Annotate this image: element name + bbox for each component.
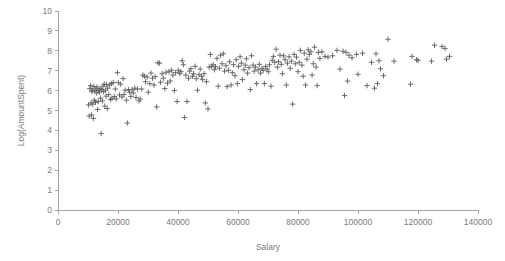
data-point — [342, 93, 347, 98]
data-point — [236, 64, 241, 69]
data-point — [161, 76, 166, 81]
data-point — [205, 106, 210, 111]
data-point — [128, 94, 133, 99]
data-point — [409, 54, 414, 59]
data-point — [295, 69, 300, 74]
data-point — [198, 66, 203, 71]
data-point — [408, 82, 413, 87]
data-point — [315, 83, 320, 88]
data-point — [354, 52, 359, 57]
x-tick-label: 20000 — [106, 217, 130, 227]
data-point — [258, 70, 263, 75]
data-point — [221, 51, 226, 56]
data-point — [227, 59, 232, 64]
data-point — [208, 52, 213, 57]
data-point — [240, 77, 245, 82]
x-tick-label: 100000 — [344, 217, 373, 227]
data-point — [187, 68, 192, 73]
data-point — [203, 100, 208, 105]
data-point — [125, 120, 130, 125]
data-point — [337, 66, 342, 71]
data-point — [162, 86, 167, 91]
y-tick-label: 0 — [47, 205, 52, 215]
data-point — [148, 70, 153, 75]
data-point — [297, 60, 302, 65]
data-point — [252, 68, 257, 73]
y-tick-label: 3 — [47, 145, 52, 155]
data-point — [226, 68, 231, 73]
data-point — [232, 73, 237, 78]
data-point — [146, 89, 151, 94]
y-tick-label: 2 — [47, 165, 52, 175]
data-point — [280, 71, 285, 76]
y-tick-label: 5 — [47, 106, 52, 116]
data-point — [271, 54, 276, 59]
data-point — [275, 64, 280, 69]
data-point — [255, 67, 260, 72]
data-point — [284, 82, 289, 87]
data-point — [322, 54, 327, 59]
data-point — [309, 72, 314, 77]
data-point — [317, 56, 322, 61]
data-point — [345, 78, 350, 83]
data-point — [212, 67, 217, 72]
chart-canvas: 012345678910 020000400006000080000100000… — [0, 0, 505, 261]
data-point — [290, 101, 295, 106]
data-point — [124, 97, 129, 102]
data-point — [163, 70, 168, 75]
data-point — [293, 61, 298, 66]
data-point — [173, 70, 178, 75]
data-point — [231, 62, 236, 67]
data-point — [184, 99, 189, 104]
data-point — [349, 55, 354, 60]
x-axis-tick-labels: 020000400006000080000100000120000140000 — [56, 217, 493, 227]
data-point — [129, 87, 134, 92]
data-point — [360, 50, 365, 55]
y-tick-label: 10 — [43, 6, 53, 16]
x-tick-label: 40000 — [166, 217, 190, 227]
x-tick-label: 0 — [56, 217, 61, 227]
data-point — [174, 99, 179, 104]
data-point — [313, 64, 318, 69]
data-point — [291, 52, 296, 57]
data-point — [254, 81, 259, 86]
x-tick-label: 80000 — [286, 217, 310, 227]
data-point — [373, 51, 378, 56]
data-point — [375, 81, 380, 86]
data-point — [319, 49, 324, 54]
data-point — [248, 87, 253, 92]
data-point — [195, 88, 200, 93]
x-tick-label: 60000 — [226, 217, 250, 227]
y-tick-label: 7 — [47, 66, 52, 76]
data-point — [262, 81, 267, 86]
data-point — [115, 70, 120, 75]
data-point — [369, 60, 374, 65]
data-point — [158, 80, 163, 85]
data-point — [266, 69, 271, 74]
data-point — [235, 81, 240, 86]
data-point — [99, 131, 104, 136]
data-point — [237, 54, 242, 59]
data-point — [201, 71, 206, 76]
data-point — [218, 52, 223, 57]
data-point — [300, 74, 305, 79]
data-point — [182, 115, 187, 120]
data-point — [234, 57, 239, 62]
data-point — [268, 84, 273, 89]
data-point — [246, 65, 251, 70]
data-point — [132, 86, 137, 91]
data-point — [444, 56, 449, 61]
data-point — [172, 88, 177, 93]
data-point — [191, 71, 196, 76]
data-point — [87, 113, 92, 118]
data-point — [194, 76, 199, 81]
data-point — [159, 71, 164, 76]
data-point — [381, 73, 386, 78]
x-axis-tick-marks — [58, 210, 478, 214]
data-point — [214, 56, 219, 61]
data-point — [181, 62, 186, 67]
data-point — [316, 50, 321, 55]
data-point — [105, 106, 110, 111]
data-point — [311, 61, 316, 66]
data-point — [180, 58, 185, 63]
